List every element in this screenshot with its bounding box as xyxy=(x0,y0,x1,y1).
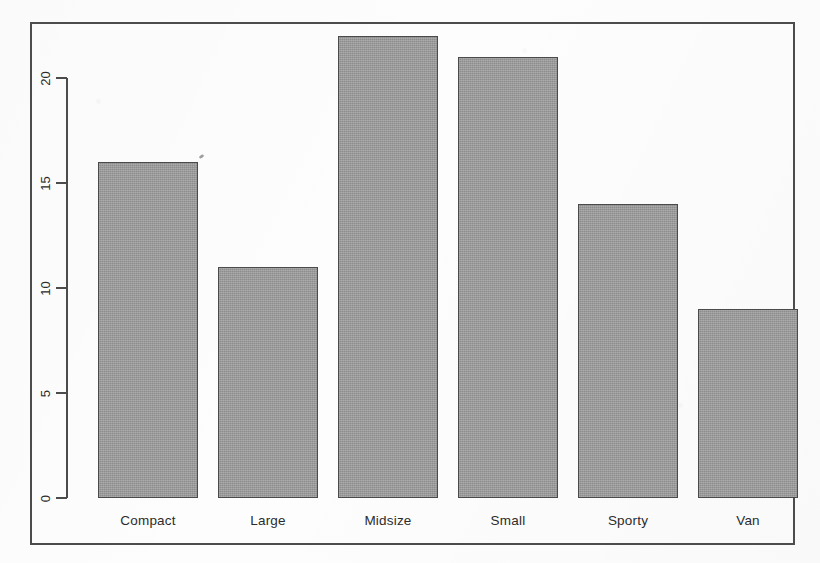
x-axis-label-small: Small xyxy=(458,513,558,528)
bar-sporty xyxy=(578,204,678,498)
x-axis-label-sporty: Sporty xyxy=(578,513,678,528)
bar-van xyxy=(698,309,798,498)
bar-compact xyxy=(98,162,198,498)
plot-area: 0 5 10 15 20 Compact Large Midsize Small… xyxy=(0,0,820,563)
bar-midsize xyxy=(338,36,438,498)
y-axis-label-10: 10 xyxy=(38,276,53,302)
y-axis-tick-0 xyxy=(56,497,67,499)
y-axis-tick-20 xyxy=(56,77,67,79)
y-axis-label-15: 15 xyxy=(38,171,53,197)
y-axis-tick-10 xyxy=(56,287,67,289)
scan-artifact-speck xyxy=(199,154,205,159)
y-axis-tick-15 xyxy=(56,182,67,184)
y-axis-tick-5 xyxy=(56,392,67,394)
bar-small xyxy=(458,57,558,498)
bar-large xyxy=(218,267,318,498)
y-axis-label-0: 0 xyxy=(38,486,53,512)
y-axis-label-20: 20 xyxy=(38,66,53,92)
y-axis-label-5: 5 xyxy=(38,381,53,407)
x-axis-label-van: Van xyxy=(698,513,798,528)
x-axis-label-large: Large xyxy=(218,513,318,528)
chart-screenshot: 0 5 10 15 20 Compact Large Midsize Small… xyxy=(0,0,820,563)
x-axis-label-compact: Compact xyxy=(98,513,198,528)
x-axis-label-midsize: Midsize xyxy=(338,513,438,528)
